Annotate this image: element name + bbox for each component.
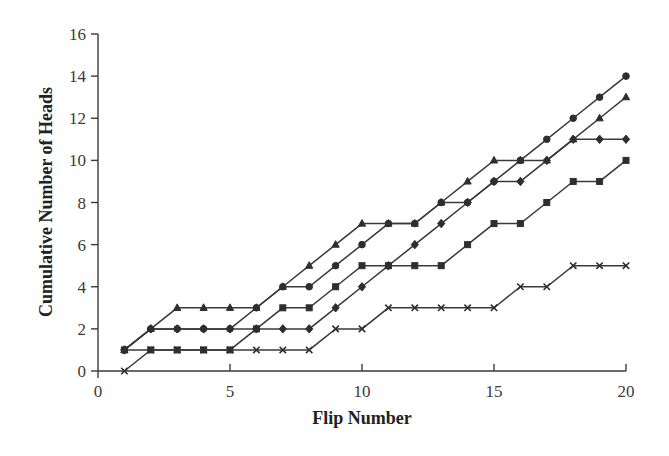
y-tick-label: 10: [69, 151, 86, 170]
circle-marker: [570, 115, 577, 122]
circle-marker: [596, 94, 603, 101]
triangle-marker: [596, 114, 603, 121]
square-marker: [465, 242, 471, 248]
y-tick-label: 6: [78, 236, 87, 255]
square-marker: [280, 305, 286, 311]
diamond-marker: [200, 325, 207, 333]
series-line: [124, 97, 626, 350]
circle-marker: [359, 241, 366, 248]
square-marker: [517, 221, 523, 227]
y-tick-label: 16: [69, 25, 86, 44]
triangle-marker: [464, 177, 471, 184]
y-tick-label: 12: [69, 109, 86, 128]
square-marker: [570, 178, 576, 184]
square-marker: [306, 305, 312, 311]
diamond-marker: [279, 325, 286, 333]
x-tick-label: 10: [354, 382, 371, 401]
circle-marker: [306, 283, 313, 290]
diamond-marker: [622, 135, 629, 143]
square-marker: [491, 221, 497, 227]
square-marker: [597, 178, 603, 184]
y-tick-label: 2: [78, 320, 87, 339]
x-axis-title: Flip Number: [312, 408, 412, 428]
y-tick-label: 8: [78, 194, 87, 213]
series-square: [121, 157, 629, 353]
y-tick-label: 4: [78, 278, 87, 297]
square-marker: [333, 284, 339, 290]
y-tick-label: 0: [78, 362, 87, 381]
x-tick-label: 5: [226, 382, 235, 401]
square-marker: [385, 263, 391, 269]
square-marker: [438, 263, 444, 269]
x-tick-label: 15: [486, 382, 503, 401]
plot-area: 0246810121416 05101520: [69, 25, 635, 401]
series-diamond: [121, 135, 630, 354]
series-line: [124, 160, 626, 350]
circle-marker: [332, 262, 339, 269]
square-marker: [544, 200, 550, 206]
y-tick-label: 14: [69, 67, 87, 86]
series-line: [124, 266, 626, 371]
square-marker: [121, 347, 127, 353]
y-axis-title: Cumulative Number of Heads: [36, 87, 56, 317]
x-tick-label: 20: [618, 382, 635, 401]
line-chart: 0246810121416 05101520 Flip Number Cumul…: [0, 0, 669, 456]
series-line: [124, 76, 626, 350]
diamond-marker: [596, 135, 603, 143]
x-tick-label: 0: [94, 382, 103, 401]
x-axis-ticks: 05101520: [94, 364, 635, 401]
series-triangle: [121, 93, 630, 352]
square-marker: [253, 326, 259, 332]
square-marker: [359, 263, 365, 269]
y-axis-ticks: 0246810121416: [69, 25, 98, 381]
square-marker: [623, 157, 629, 163]
triangle-marker: [332, 241, 339, 248]
diamond-marker: [174, 325, 181, 333]
series-x: [121, 262, 629, 374]
series-circle: [121, 73, 629, 353]
series-group: [121, 73, 630, 374]
triangle-marker: [306, 262, 313, 269]
square-marker: [412, 263, 418, 269]
circle-marker: [544, 136, 551, 143]
triangle-marker: [622, 93, 629, 100]
circle-marker: [623, 73, 630, 80]
